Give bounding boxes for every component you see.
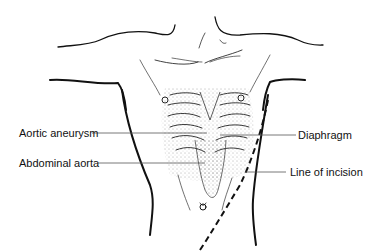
- label-line-of-incision: Line of incision: [290, 166, 363, 178]
- label-abdominal-aorta: Abdominal aorta: [19, 157, 99, 169]
- torso-illustration: Aortic aneurysm Abdominal aorta Diaphrag…: [0, 0, 377, 251]
- label-diaphragm: Diaphragm: [298, 129, 352, 141]
- rib-cage: [162, 88, 254, 198]
- torso-drawing: [0, 0, 377, 251]
- label-aortic-aneurysm: Aortic aneurysm: [19, 127, 98, 139]
